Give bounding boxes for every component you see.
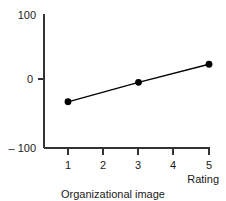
y-tick-label-0: 0 [0,74,33,85]
x-axis-title: Rating [187,174,219,185]
data-point-marker [206,61,213,68]
chart-container: 100 0 – 100 1 2 3 4 5 Rating Organizatio… [0,0,226,201]
x-tick-label-4: 4 [170,160,176,171]
data-point-marker [65,98,72,105]
data-point-marker [135,79,142,86]
plot-area [0,0,226,201]
x-tick-label-2: 2 [100,160,106,171]
x-tick-label-3: 3 [135,160,141,171]
x-tick-label-1: 1 [65,160,71,171]
y-tick-label-100: 100 [0,10,36,21]
x-tick-label-5: 5 [206,160,212,171]
y-tick-label-minus-100: – 100 [0,143,36,154]
chart-caption: Organizational image [0,188,226,200]
